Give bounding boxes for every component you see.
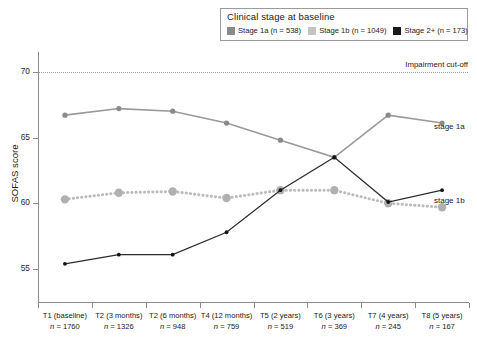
data-point[interactable] — [61, 195, 69, 203]
data-point[interactable] — [117, 253, 121, 257]
x-tick-label-7: T8 (5 years)n = 167 — [398, 311, 477, 332]
data-point[interactable] — [330, 186, 338, 194]
series-line-stage-2plus — [63, 155, 444, 265]
data-point[interactable] — [62, 113, 67, 118]
y-tick-55 — [33, 269, 38, 270]
y-tick-label-55: 55 — [0, 263, 30, 273]
x-tick-5 — [307, 303, 308, 308]
data-point[interactable] — [279, 188, 283, 192]
data-point[interactable] — [168, 187, 176, 195]
y-tick-65 — [33, 138, 38, 139]
x-tick-3 — [200, 303, 201, 308]
x-tick-4 — [254, 303, 255, 308]
x-tick-0 — [38, 303, 39, 308]
y-tick-60 — [33, 203, 38, 204]
data-point[interactable] — [386, 113, 391, 118]
x-tick-1 — [92, 303, 93, 308]
x-tick-6 — [361, 303, 362, 308]
x-tick-7 — [415, 303, 416, 308]
y-tick-label-70: 70 — [0, 66, 30, 76]
data-point[interactable] — [170, 109, 175, 114]
data-point[interactable] — [224, 120, 229, 125]
data-point[interactable] — [440, 188, 444, 192]
series-annotation-stage-1b: stage 1b — [434, 196, 465, 205]
data-point[interactable] — [225, 230, 229, 234]
data-point[interactable] — [115, 189, 123, 197]
x-tick-label-text: T8 (5 years) — [422, 311, 463, 320]
series-line-stage-1b — [61, 186, 447, 211]
x-tick-2 — [146, 303, 147, 308]
data-point[interactable] — [63, 262, 67, 266]
data-point[interactable] — [116, 106, 121, 111]
y-tick-label-65: 65 — [0, 132, 30, 142]
data-point[interactable] — [278, 138, 283, 143]
y-tick-70 — [33, 72, 38, 73]
series-path-stage-2- — [65, 157, 442, 264]
series-line-stage-1a — [62, 106, 444, 160]
data-point[interactable] — [332, 155, 336, 159]
y-tick-label-60: 60 — [0, 197, 30, 207]
data-point[interactable] — [386, 200, 390, 204]
series-path-stage-1a — [65, 109, 442, 158]
sofas-score-chart: Clinical stage at baseline Stage 1a (n =… — [0, 0, 477, 343]
data-point[interactable] — [171, 253, 175, 257]
data-point[interactable] — [222, 194, 230, 202]
series-annotation-stage-1a: stage 1a — [434, 122, 465, 131]
series-layer — [0, 0, 477, 343]
x-tick-8 — [469, 303, 470, 308]
x-tick-label-count: n = 167 — [398, 322, 477, 333]
